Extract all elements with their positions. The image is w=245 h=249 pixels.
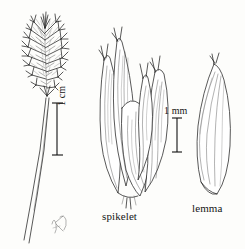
culm <box>24 98 49 243</box>
artist-monogram <box>52 216 66 233</box>
scalebar-cm-label: 1 cm <box>57 72 67 106</box>
panicle-group <box>22 12 69 243</box>
scalebar-cm <box>52 103 63 155</box>
label-lemma: lemma <box>192 203 222 214</box>
lemma-group <box>197 53 230 194</box>
spikelet-group <box>99 27 168 209</box>
scalebar-mm <box>172 118 182 152</box>
label-spikelet: spikelet <box>102 211 137 222</box>
botanical-illustration-plate: .ln { fill:none; stroke:#222; stroke-wid… <box>0 0 245 249</box>
scalebar-mm-label: 1 mm <box>164 106 187 116</box>
